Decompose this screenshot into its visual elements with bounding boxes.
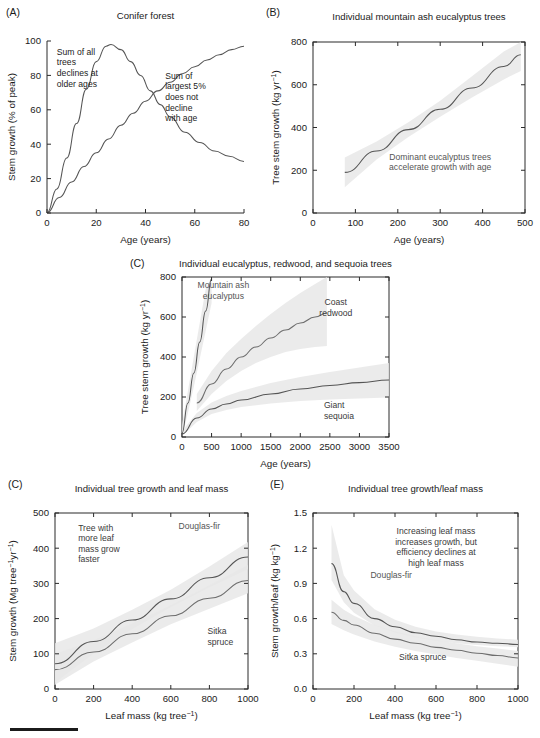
- chart-annotation: Sitka spruce: [399, 652, 447, 662]
- chart-B: (B)Individual mountain ash eucalyptus tr…: [262, 0, 540, 255]
- y-tick-label: 1.5: [294, 507, 307, 518]
- chart-annotation: Coastredwood: [319, 297, 352, 318]
- y-tick-label: 0.6: [294, 613, 307, 624]
- chart-C: (C)Individual eucalyptus, redwood, and s…: [130, 256, 540, 471]
- x-tick-label: 3000: [349, 441, 370, 452]
- x-tick-label: 1000: [237, 693, 258, 704]
- x-tick-label: 500: [204, 441, 220, 452]
- x-tick-label: 400: [475, 217, 491, 228]
- y-tick-label: 200: [291, 165, 307, 176]
- x-tick-label: 200: [86, 693, 102, 704]
- y-tick-label: 400: [160, 351, 176, 362]
- chart-D: (C)Individual tree growth and leaf mass0…: [0, 472, 270, 738]
- panel-title: Individual eucalyptus, redwood, and sequ…: [179, 258, 392, 269]
- chart-A: (A)Conifer forest020406080020406080100Ag…: [0, 0, 270, 255]
- x-tick-label: 2500: [319, 441, 340, 452]
- panel-letter: (C): [8, 478, 23, 490]
- y-tick-label: 600: [160, 311, 176, 322]
- x-tick-label: 0: [310, 693, 315, 704]
- y-axis-title: Stem growth (% of peak): [6, 73, 17, 181]
- y-axis-title: Stem growth/leaf (kg kg−1 ): [269, 544, 280, 658]
- y-tick-label: 1.2: [294, 543, 307, 554]
- y-tick-label: 0: [44, 683, 49, 694]
- panel-title: Individual mountain ash eucalyptus trees: [332, 11, 506, 22]
- x-tick-label: 500: [517, 217, 533, 228]
- panel-letter: (B): [266, 6, 280, 18]
- y-tick-label: 300: [33, 578, 49, 589]
- y-tick-label: 0.3: [294, 648, 307, 659]
- y-tick-label: 800: [160, 271, 176, 282]
- x-tick-label: 800: [469, 693, 485, 704]
- chart-annotation: Dominant eucalyptus treesaccelerate grow…: [389, 152, 491, 173]
- y-tick-label: 80: [30, 70, 41, 81]
- y-tick-label: 600: [291, 79, 307, 90]
- chart-annotation: Increasing leaf massincreases growth, bu…: [395, 526, 477, 568]
- panel-E: (E)Individual tree growth/leaf mass02004…: [262, 472, 540, 738]
- y-tick-label: 500: [33, 507, 49, 518]
- x-tick-label: 1000: [230, 441, 251, 452]
- panel-B: (B)Individual mountain ash eucalyptus tr…: [262, 0, 540, 255]
- x-tick-label: 400: [124, 693, 140, 704]
- axes-frame: [47, 41, 244, 213]
- y-tick-label: 800: [291, 36, 307, 47]
- y-tick-label: 100: [33, 648, 49, 659]
- uncertainty-bands: [182, 277, 389, 437]
- panel-C: (C)Individual eucalyptus, redwood, and s…: [130, 256, 540, 471]
- x-tick-label: 20: [91, 217, 102, 228]
- x-tick-label: 800: [201, 693, 217, 704]
- panel-A: (A)Conifer forest020406080020406080100Ag…: [0, 0, 270, 255]
- panel-title: Individual tree growth/leaf mass: [348, 483, 483, 494]
- panel-title: Conifer forest: [117, 10, 175, 21]
- x-axis-title: Leaf mass (kg tree−1 ): [369, 710, 461, 721]
- y-tick-label: 20: [30, 173, 41, 184]
- x-tick-label: 80: [239, 217, 250, 228]
- x-tick-label: 300: [432, 217, 448, 228]
- chart-annotation: Douglas-fir: [179, 521, 221, 531]
- x-tick-label: 1500: [260, 441, 281, 452]
- y-tick-label: 400: [291, 122, 307, 133]
- chart-annotation: Giantsequoia: [324, 400, 354, 421]
- x-tick-label: 1000: [507, 693, 528, 704]
- y-tick-label: 60: [30, 104, 41, 115]
- panel-letter: (A): [6, 6, 20, 18]
- y-tick-label: 0.0: [294, 683, 307, 694]
- panel-letter: (E): [270, 478, 284, 490]
- x-axis-title: Age (years): [260, 458, 311, 469]
- y-tick-label: 0.9: [294, 578, 307, 589]
- x-tick-label: 100: [347, 217, 363, 228]
- figure-root: (A)Conifer forest020406080020406080100Ag…: [0, 0, 540, 738]
- y-tick-label: 40: [30, 139, 41, 150]
- panel-title: Individual tree growth and leaf mass: [75, 483, 229, 494]
- panel-letter: (C): [130, 257, 145, 269]
- y-tick-label: 200: [33, 613, 49, 624]
- chart-annotation: Sitkaspruce: [207, 626, 233, 647]
- x-tick-label: 200: [390, 217, 406, 228]
- chart-annotation: Tree withmore leafmass growfaster: [78, 523, 120, 565]
- y-tick-label: 0: [171, 431, 176, 442]
- caption-rule: [10, 728, 78, 731]
- chart-annotation: Sum of alltreesdeclines atolder ages: [57, 47, 99, 89]
- x-axis-title: Age (years): [394, 234, 445, 245]
- y-tick-label: 0: [302, 207, 307, 218]
- chart-E: (E)Individual tree growth/leaf mass02004…: [262, 472, 540, 738]
- x-axis-title: Age (years): [120, 234, 171, 245]
- x-axis-title: Leaf mass (kg tree−1 ): [105, 710, 197, 721]
- y-axis-title: Tree stem growth (kg yr−1 ): [270, 70, 281, 184]
- y-axis-title: Tree stem growth (kg yr−1 ): [139, 300, 150, 414]
- x-tick-label: 600: [428, 693, 444, 704]
- y-axis-title: Stem growth (Mg tree−1 yr−1 ): [7, 540, 18, 662]
- x-tick-label: 0: [44, 217, 49, 228]
- x-tick-label: 0: [52, 693, 57, 704]
- y-tick-label: 400: [33, 543, 49, 554]
- chart-annotation: Sum oflargest 5%does notdeclinewith age: [164, 71, 206, 123]
- x-tick-label: 600: [163, 693, 179, 704]
- x-tick-label: 60: [189, 217, 200, 228]
- x-tick-label: 40: [140, 217, 151, 228]
- chart-annotation: Douglas-fir: [370, 570, 412, 580]
- x-tick-label: 3500: [378, 441, 399, 452]
- x-tick-label: 0: [310, 217, 315, 228]
- y-tick-label: 100: [25, 35, 41, 46]
- x-tick-label: 2000: [290, 441, 311, 452]
- y-tick-label: 0: [36, 207, 41, 218]
- panel-D: (C)Individual tree growth and leaf mass0…: [0, 472, 270, 738]
